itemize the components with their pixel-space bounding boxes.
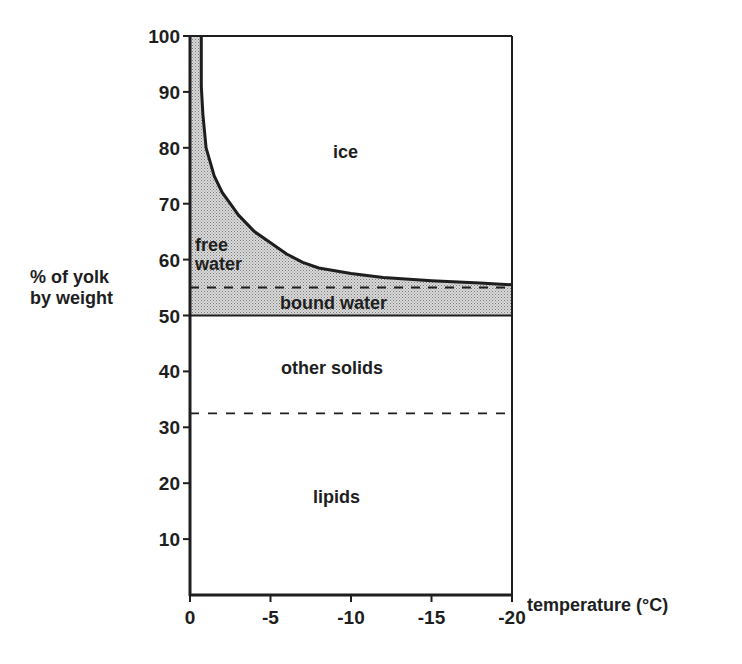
y-tick-label: 10 [159,529,180,550]
y-tick-label: 100 [148,26,180,47]
y-axis-ticks: 102030405060708090100 [148,26,190,550]
yolk-composition-chart: 102030405060708090100 0-5-10-15-20 ice f… [0,0,742,664]
y-tick-label: 40 [159,361,180,382]
region-label-bound-water: bound water [280,293,387,313]
x-axis-title: temperature (°C) [527,595,668,615]
y-tick-label: 50 [159,306,180,327]
region-label-ice: ice [333,142,358,162]
y-tick-label: 70 [159,194,180,215]
y-tick-label: 80 [159,138,180,159]
y-axis-title-line-2: by weight [30,288,113,308]
x-axis-ticks: 0-5-10-15-20 [185,595,526,628]
y-tick-label: 90 [159,82,180,103]
x-tick-label: -20 [498,607,525,628]
y-axis-title-line-1: % of yolk [30,267,110,287]
region-label-free-water-2: water [194,254,242,274]
region-label-other-solids: other solids [281,358,383,378]
y-tick-label: 60 [159,250,180,271]
region-label-lipids: lipids [313,487,360,507]
x-tick-label: -15 [418,607,446,628]
x-tick-label: -10 [337,607,364,628]
region-label-free-water-1: free [195,235,228,255]
x-tick-label: 0 [185,607,196,628]
y-tick-label: 20 [159,473,180,494]
x-tick-label: -5 [262,607,279,628]
y-tick-label: 30 [159,417,180,438]
